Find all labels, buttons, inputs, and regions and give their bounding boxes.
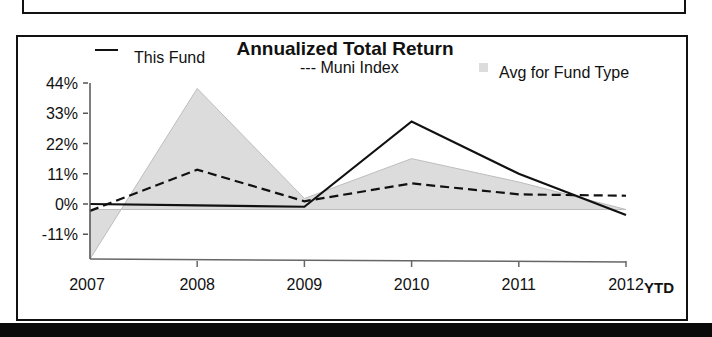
legend-muni-index: --- Muni Index <box>300 59 399 76</box>
x-tick-label: 2008 <box>179 276 215 293</box>
annualized-return-chart: Annualized Total Return This Fund --- Mu… <box>16 35 688 321</box>
y-axis: 44%33%22%11%0%-11% <box>42 75 90 259</box>
bottom-edge-bar <box>0 323 712 337</box>
x-tick-label: 2009 <box>287 276 323 293</box>
x-tick-label: 2012 <box>608 276 644 293</box>
chart-title: Annualized Total Return <box>236 38 453 59</box>
legend-shaded-square-icon <box>479 63 488 72</box>
legend-avg-fund-type: Avg for Fund Type <box>499 64 629 81</box>
chart-svg: Annualized Total Return This Fund --- Mu… <box>18 37 686 319</box>
y-tick-label: 22% <box>46 136 78 153</box>
avg-fund-type-area <box>90 89 626 260</box>
y-tick-label: 0% <box>55 196 78 213</box>
legend-this-fund: This Fund <box>134 49 205 66</box>
x-tick-label: 2007 <box>69 276 105 293</box>
ytd-label: YTD <box>644 279 674 296</box>
y-tick-label: 11% <box>47 166 78 183</box>
y-tick-label: -11% <box>42 226 78 243</box>
plot-area <box>90 89 626 260</box>
previous-panel-frame <box>22 0 686 14</box>
y-tick-label: 44% <box>46 75 78 92</box>
y-tick-label: 33% <box>46 105 78 122</box>
x-axis: 200720082009201020112012YTD <box>69 259 674 296</box>
x-tick-label: 2011 <box>502 276 537 293</box>
x-tick-label: 2010 <box>394 276 430 293</box>
